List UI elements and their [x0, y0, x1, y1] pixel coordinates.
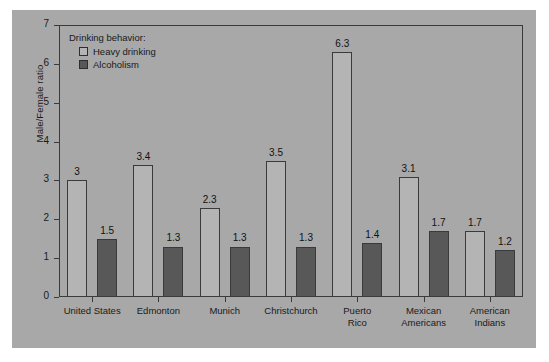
y-axis-tick-label: 5	[43, 96, 49, 108]
x-axis-tick-mark	[490, 297, 491, 302]
chart-figure: Male/Female ratio 01234567 Drinking beha…	[0, 0, 549, 362]
bar-heavy-drinking	[332, 52, 352, 297]
bar-value-label: 1.3	[223, 232, 257, 243]
y-axis-tick: 6	[12, 64, 59, 65]
bar-alcoholism	[495, 250, 515, 297]
y-axis-tick: 5	[12, 103, 59, 104]
y-axis-tick: 3	[12, 180, 59, 181]
y-axis-tick-label: 3	[43, 173, 49, 185]
legend-label-alcoholism: Alcoholism	[93, 59, 139, 70]
x-axis-tick-mark	[158, 297, 159, 302]
bar-alcoholism	[296, 247, 316, 298]
legend-title: Drinking behavior:	[69, 32, 156, 43]
bar-alcoholism	[163, 247, 183, 298]
x-axis-tick-mark	[357, 297, 358, 302]
bar-alcoholism	[97, 239, 117, 297]
bar-heavy-drinking	[200, 208, 220, 297]
bar-value-label: 1.3	[156, 232, 190, 243]
bar-value-label: 3.5	[259, 147, 293, 158]
bar-value-label: 1.7	[422, 217, 456, 228]
bar-heavy-drinking	[465, 231, 485, 297]
y-axis-tick-label: 2	[43, 212, 49, 224]
x-axis-tick-mark	[424, 297, 425, 302]
bar-value-label: 1.5	[90, 225, 124, 236]
bar-alcoholism	[362, 243, 382, 297]
legend-item-alcoholism: Alcoholism	[79, 59, 156, 70]
bar-value-label: 2.3	[193, 194, 227, 205]
bar-value-label: 1.2	[488, 236, 522, 247]
y-axis-tick-label: 4	[43, 135, 49, 147]
x-axis-tick-mark	[225, 297, 226, 302]
legend-swatch-heavy-drinking	[79, 47, 88, 56]
y-axis-tick: 7	[12, 25, 59, 26]
bar-alcoholism	[230, 247, 250, 298]
y-axis-tick: 0	[12, 297, 59, 298]
bar-heavy-drinking	[266, 161, 286, 297]
y-axis-tick-label: 0	[43, 290, 49, 302]
chart-legend: Drinking behavior: Heavy drinking Alcoho…	[69, 32, 156, 72]
y-axis-tick: 1	[12, 258, 59, 259]
bar-value-label: 3	[60, 166, 94, 177]
y-axis-tick-label: 1	[43, 251, 49, 263]
y-axis-tick-label: 7	[43, 18, 49, 30]
bar-value-label: 6.3	[325, 38, 359, 49]
bar-heavy-drinking	[67, 180, 87, 297]
bar-alcoholism	[429, 231, 449, 297]
y-axis-tick-label: 6	[43, 57, 49, 69]
bar-value-label: 1.3	[289, 232, 323, 243]
bar-value-label: 1.7	[458, 217, 492, 228]
x-axis: United StatesEdmontonMunichChristchurchP…	[59, 297, 523, 353]
bar-heavy-drinking	[399, 177, 419, 297]
bar-value-label: 3.4	[126, 151, 160, 162]
legend-label-heavy-drinking: Heavy drinking	[93, 46, 156, 57]
x-axis-tick-mark	[92, 297, 93, 302]
bar-heavy-drinking	[133, 165, 153, 297]
x-axis-tick-label: American Indians	[445, 305, 535, 328]
legend-swatch-alcoholism	[79, 60, 88, 69]
bar-value-label: 3.1	[392, 163, 426, 174]
y-axis-tick: 2	[12, 219, 59, 220]
legend-item-heavy-drinking: Heavy drinking	[79, 46, 156, 57]
bar-value-label: 1.4	[355, 229, 389, 240]
x-axis-tick-mark	[291, 297, 292, 302]
chart-panel: Male/Female ratio 01234567 Drinking beha…	[12, 10, 536, 348]
y-axis-tick: 4	[12, 142, 59, 143]
